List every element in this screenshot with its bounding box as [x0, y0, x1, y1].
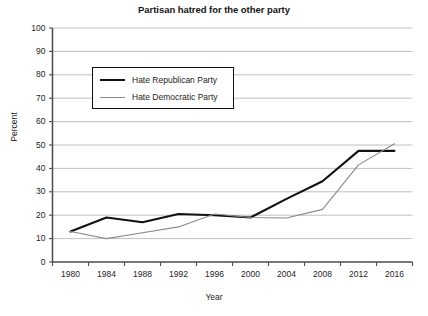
legend-label-hate-democratic-party: Hate Democratic Party [132, 92, 218, 102]
series-line-hate-republican-party [71, 151, 395, 232]
chart-container: Partisan hatred for the other party Perc… [0, 0, 428, 316]
legend-swatch-hate-republican-party [100, 79, 125, 81]
series-line-hate-democratic-party [71, 144, 395, 239]
legend-item-hate-democratic-party: Hate Democratic Party [100, 89, 218, 105]
legend-swatch-hate-democratic-party [100, 97, 125, 98]
legend-label-hate-republican-party: Hate Republican Party [132, 75, 217, 85]
plot-area [0, 0, 428, 316]
legend-item-hate-republican-party: Hate Republican Party [100, 72, 217, 88]
chart-legend: Hate Republican Party Hate Democratic Pa… [92, 67, 234, 109]
